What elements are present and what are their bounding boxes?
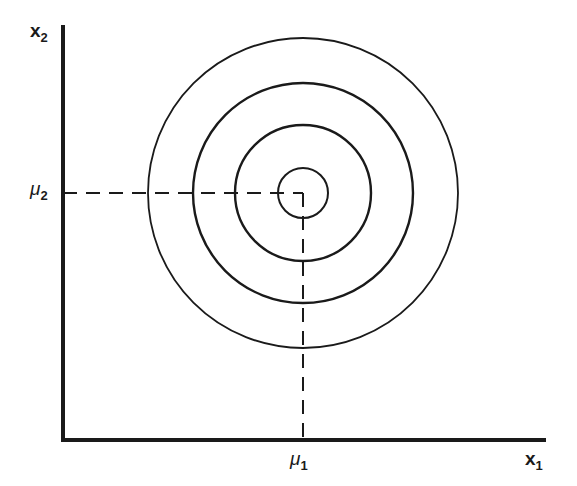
y-axis-subscript: 2 xyxy=(41,30,48,45)
mu1-label: μ1 xyxy=(290,448,308,473)
x-axis-label: x1 xyxy=(525,448,543,473)
y-axis-label: x2 xyxy=(30,20,48,45)
mu2-symbol: μ xyxy=(30,178,40,199)
mu1-symbol: μ xyxy=(290,448,300,469)
mu2-label: μ2 xyxy=(30,178,48,203)
mu2-subscript: 2 xyxy=(40,188,47,203)
x-axis-subscript: 1 xyxy=(536,458,543,473)
contour-diagram xyxy=(0,0,577,486)
y-axis-symbol: x xyxy=(30,20,41,41)
mu1-subscript: 1 xyxy=(300,458,307,473)
x-axis-symbol: x xyxy=(525,448,536,469)
